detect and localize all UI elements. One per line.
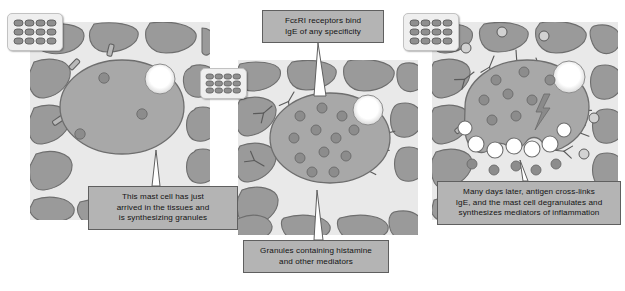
nucleus [353, 95, 383, 125]
tissue-grid-icon [7, 13, 63, 51]
label-antigen-crosslink: Many days later, antigen cross-links IgE… [437, 181, 621, 225]
tissue-grid-icon [403, 13, 459, 51]
label-mast-cell-arrival: This mast cell has just arrived in the t… [88, 186, 238, 230]
figure-canvas: This mast cell has just arrived in the t… [0, 0, 625, 291]
tissue-grid-icon [200, 68, 247, 99]
nucleus [553, 61, 585, 93]
label-fceri-receptors: FcεRI receptors bind IgE of any specific… [262, 10, 384, 43]
label-text: Granules containing histamine and other … [260, 246, 372, 267]
label-granules-histamine: Granules containing histamine and other … [243, 240, 389, 273]
nucleus [145, 64, 175, 94]
label-text: FcεRI receptors bind IgE of any specific… [285, 16, 361, 37]
label-text: This mast cell has just arrived in the t… [117, 192, 210, 223]
label-text: Many days later, antigen cross-links IgE… [456, 187, 603, 218]
panel-ige-sensitized [238, 60, 418, 235]
